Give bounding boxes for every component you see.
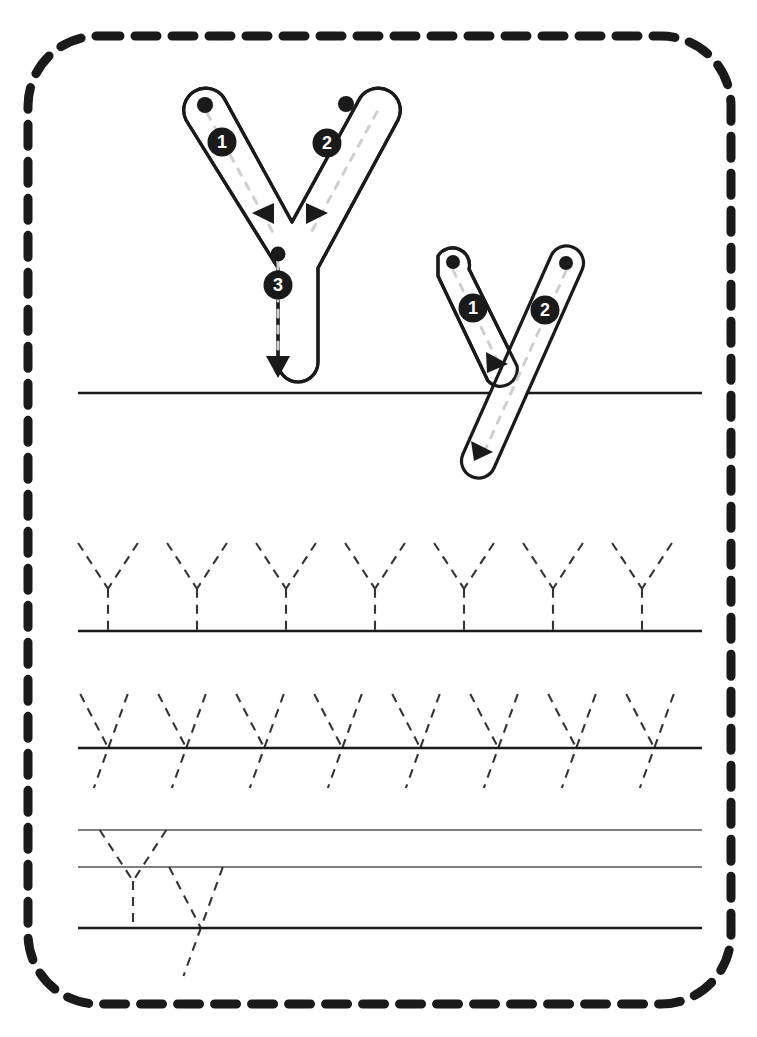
trace-arm-right-descender [562,694,596,788]
uppercase-stroke-1-start-dot [197,97,213,113]
trace-arm-left [236,694,264,748]
trace-arm-left [314,694,342,748]
trace-letter-uppercase-Y [167,543,227,631]
trace-letter-uppercase-Y [612,543,672,631]
trace-arm-left [626,694,654,748]
trace-arm-left [167,543,197,589]
trace-letter-lowercase-y [80,694,128,788]
trace-letter-lowercase-y [314,694,362,788]
trace-letter-lowercase-y [548,694,596,788]
trace-arm-left [548,694,576,748]
trace-arm-right-descender [406,694,440,788]
trace-arm-right [553,543,583,589]
trace-arm-right [286,543,316,589]
trace-arm-right-descender [94,694,128,788]
lowercase-stroke-1-number: 1 [468,298,478,318]
trace-arm-left [392,694,420,748]
trace-arm-right [108,543,138,589]
free-practice-row [78,830,702,976]
trace-arm-right-descender [640,694,674,788]
trace-arm-right-descender [484,694,518,788]
trace-letter-uppercase-Y [100,830,167,928]
trace-arm-right-descender [184,867,223,976]
trace-letter-uppercase-Y [434,543,494,631]
trace-arm-left [158,694,186,748]
trace-arm-left [100,830,133,881]
trace-letter-lowercase-y [626,694,674,788]
lowercase-stroke-1-start-dot [446,255,460,269]
trace-arm-left [80,694,108,748]
trace-row-uppercase-letters [78,543,672,631]
uppercase-stroke-2-number: 2 [322,133,332,153]
trace-letter-lowercase-y [158,694,206,788]
trace-letter-lowercase-y [169,867,223,976]
lowercase-outline [438,246,584,478]
uppercase-stroke-2-start-dot [338,96,354,112]
trace-arm-right [197,543,227,589]
trace-letter-uppercase-Y [345,543,405,631]
trace-arm-right-descender [172,694,206,788]
trace-arm-left [256,543,286,589]
trace-arm-left [523,543,553,589]
dashed-page-border [28,36,731,1004]
trace-arm-right [133,830,166,881]
practice-row-sample-letters [100,830,223,976]
trace-arm-right [642,543,672,589]
uppercase-stroke-3-number: 3 [273,275,283,295]
trace-arm-left [345,543,375,589]
trace-arm-right-descender [250,694,284,788]
trace-arm-left [612,543,642,589]
trace-arm-left [169,867,201,928]
trace-row-lowercase [78,694,702,788]
trace-arm-right [464,543,494,589]
lowercase-stroke-2-number: 2 [540,300,550,320]
trace-letter-lowercase-y [236,694,284,788]
worksheet-page: Letter Y Handwriting Tracing Worksheet [0,0,757,1037]
trace-letter-uppercase-Y [256,543,316,631]
trace-letter-lowercase-y [392,694,440,788]
model-letter-lowercase-y: 1 2 [438,246,584,478]
uppercase-stroke-3-start-dot [271,247,286,262]
lowercase-stroke-2-start-dot [559,256,573,270]
model-letter-uppercase-Y: 1 2 3 [184,88,401,382]
trace-row-lowercase-letters [80,694,674,788]
trace-letter-uppercase-Y [523,543,583,631]
uppercase-stroke-1-number: 1 [217,132,227,152]
trace-arm-right-descender [328,694,362,788]
trace-arm-right [375,543,405,589]
trace-arm-left [78,543,108,589]
trace-arm-left [470,694,498,748]
trace-letter-uppercase-Y [78,543,138,631]
worksheet-canvas: 1 2 3 [0,0,757,1037]
trace-letter-lowercase-y [470,694,518,788]
trace-row-uppercase [78,543,702,631]
trace-arm-left [434,543,464,589]
